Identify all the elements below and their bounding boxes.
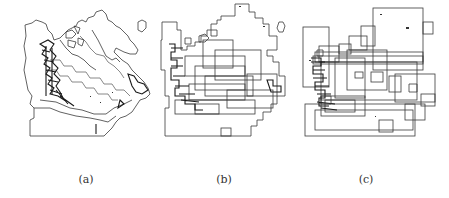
canada-polygon-map <box>20 0 155 145</box>
caption-a: (a) <box>71 173 101 186</box>
panel-b-map <box>155 0 290 145</box>
caption-c: (c) <box>351 173 381 186</box>
panel-c-map <box>295 0 440 145</box>
canada-bounding-rectangles-map <box>295 0 440 145</box>
caption-b: (b) <box>209 173 239 186</box>
canada-staircase-map <box>155 0 290 145</box>
panel-a-map <box>20 0 155 145</box>
